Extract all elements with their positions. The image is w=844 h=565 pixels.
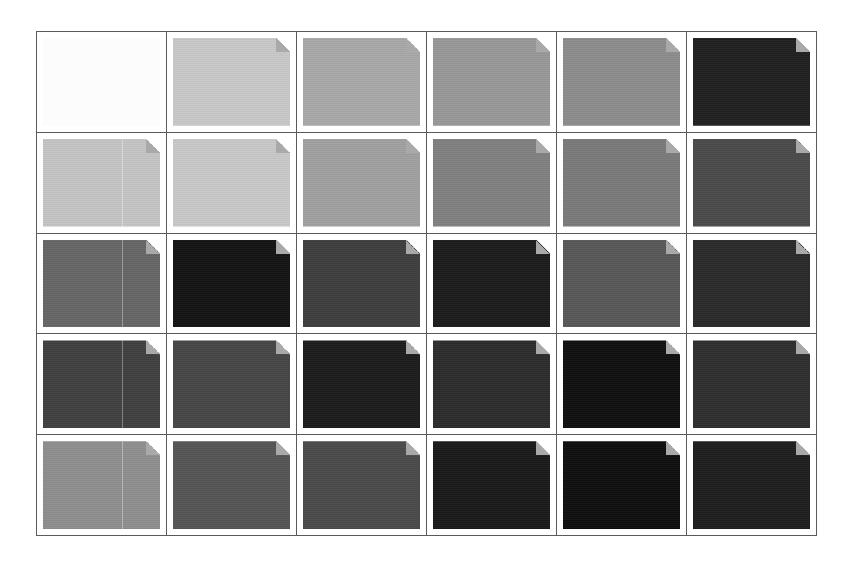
page-fold-corner-icon [146, 240, 160, 254]
grid-cell-r4-c6[interactable] [687, 334, 817, 435]
grid-cell-r2-c4[interactable] [427, 133, 557, 234]
page-fold-corner-icon [536, 240, 550, 254]
document-thumbnail-icon [303, 38, 420, 126]
page-fold-corner-icon [276, 139, 290, 153]
grid-cell-r2-c6[interactable] [687, 133, 817, 234]
grid-cell-r5-c4[interactable] [427, 435, 557, 536]
grid-cell-r3-c4[interactable] [427, 234, 557, 335]
document-thumbnail-icon [433, 340, 550, 428]
document-thumbnail-icon [173, 38, 290, 126]
page-fold-corner-icon [796, 441, 810, 455]
page-fold-corner-icon [406, 240, 420, 254]
grid-cell-r3-c1[interactable] [37, 234, 167, 335]
split-line [122, 139, 123, 227]
grid-cell-r5-c1[interactable] [37, 435, 167, 536]
page-fold-corner-icon [406, 340, 420, 354]
grid-cell-r5-c5[interactable] [557, 435, 687, 536]
empty-slot [43, 38, 160, 126]
grid-cell-r2-c3[interactable] [297, 133, 427, 234]
page-fold-corner-icon [796, 139, 810, 153]
grid-cell-r5-c6[interactable] [687, 435, 817, 536]
page-fold-corner-icon [666, 441, 680, 455]
thumbnail-grid [36, 31, 817, 536]
document-thumbnail-icon [303, 340, 420, 428]
document-thumbnail-icon [433, 38, 550, 126]
document-thumbnail-icon [173, 139, 290, 227]
grid-cell-r3-c6[interactable] [687, 234, 817, 335]
page-fold-corner-icon [796, 340, 810, 354]
grid-cell-r3-c2[interactable] [167, 234, 297, 335]
split-line [122, 441, 123, 529]
page-fold-corner-icon [146, 441, 160, 455]
page-fold-corner-icon [276, 240, 290, 254]
document-thumbnail-icon [433, 139, 550, 227]
grid-cell-r2-c5[interactable] [557, 133, 687, 234]
document-thumbnail-icon [173, 240, 290, 328]
page-fold-corner-icon [406, 139, 420, 153]
grid-cell-r4-c4[interactable] [427, 334, 557, 435]
grid-cell-r5-c2[interactable] [167, 435, 297, 536]
document-thumbnail-icon [43, 240, 160, 328]
page-fold-corner-icon [276, 441, 290, 455]
grid-cell-r1-c1[interactable] [37, 32, 167, 133]
document-thumbnail-icon [693, 340, 810, 428]
grid-cell-r3-c5[interactable] [557, 234, 687, 335]
page-fold-corner-icon [666, 240, 680, 254]
page-fold-corner-icon [406, 441, 420, 455]
split-line [122, 240, 123, 328]
grid-cell-r3-c3[interactable] [297, 234, 427, 335]
document-thumbnail-icon [563, 240, 680, 328]
document-thumbnail-icon [563, 441, 680, 529]
document-thumbnail-icon [433, 240, 550, 328]
document-thumbnail-icon [303, 240, 420, 328]
document-thumbnail-icon [693, 139, 810, 227]
page-fold-corner-icon [796, 38, 810, 52]
document-thumbnail-icon [433, 441, 550, 529]
document-thumbnail-icon [693, 38, 810, 126]
document-thumbnail-icon [43, 340, 160, 428]
grid-cell-r1-c2[interactable] [167, 32, 297, 133]
page-fold-corner-icon [146, 340, 160, 354]
grid-cell-r1-c5[interactable] [557, 32, 687, 133]
grid-cell-r5-c3[interactable] [297, 435, 427, 536]
document-thumbnail-icon [563, 139, 680, 227]
grid-cell-r2-c2[interactable] [167, 133, 297, 234]
document-thumbnail-icon [173, 441, 290, 529]
document-thumbnail-icon [693, 240, 810, 328]
grid-cell-r4-c5[interactable] [557, 334, 687, 435]
page-fold-corner-icon [146, 139, 160, 153]
page-fold-corner-icon [536, 38, 550, 52]
document-thumbnail-icon [563, 340, 680, 428]
document-thumbnail-icon [303, 441, 420, 529]
split-line [122, 340, 123, 428]
page-fold-corner-icon [536, 340, 550, 354]
page-fold-corner-icon [796, 240, 810, 254]
grid-cell-r4-c1[interactable] [37, 334, 167, 435]
grid-cell-r1-c4[interactable] [427, 32, 557, 133]
document-thumbnail-icon [43, 441, 160, 529]
document-thumbnail-icon [43, 139, 160, 227]
page-fold-corner-icon [666, 38, 680, 52]
document-thumbnail-icon [303, 139, 420, 227]
grid-cell-r4-c2[interactable] [167, 334, 297, 435]
page-fold-corner-icon [666, 139, 680, 153]
page-fold-corner-icon [276, 340, 290, 354]
grid-cell-r1-c6[interactable] [687, 32, 817, 133]
page-fold-corner-icon [536, 139, 550, 153]
grid-cell-r1-c3[interactable] [297, 32, 427, 133]
page-fold-corner-icon [666, 340, 680, 354]
page-fold-corner-icon [276, 38, 290, 52]
document-thumbnail-icon [693, 441, 810, 529]
document-thumbnail-icon [173, 340, 290, 428]
grid-cell-r4-c3[interactable] [297, 334, 427, 435]
page-fold-corner-icon [536, 441, 550, 455]
document-thumbnail-icon [563, 38, 680, 126]
grid-cell-r2-c1[interactable] [37, 133, 167, 234]
page-fold-corner-icon [406, 38, 420, 52]
